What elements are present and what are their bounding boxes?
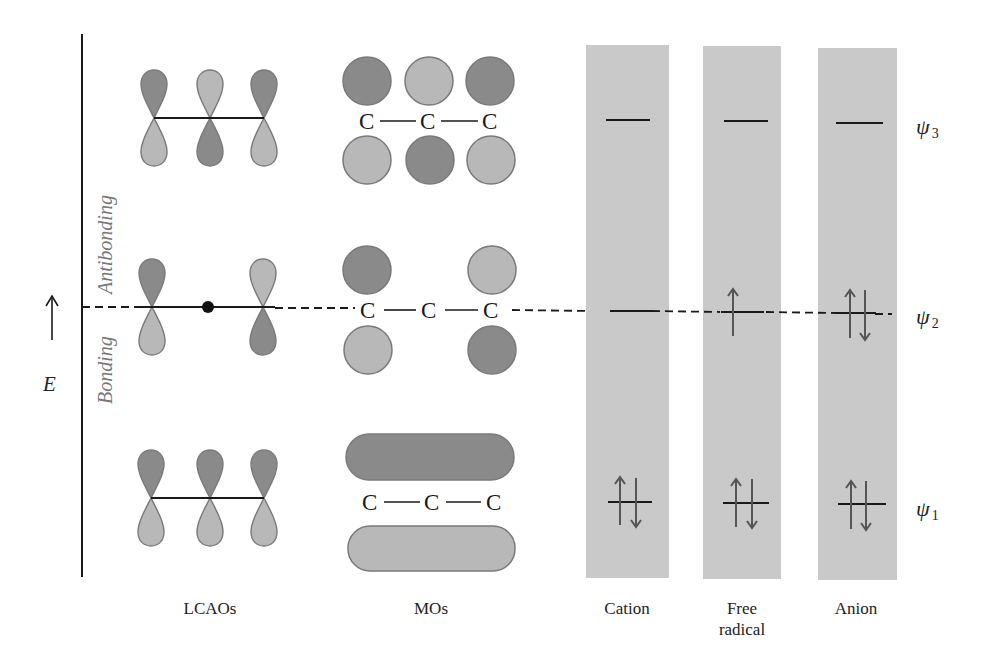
psi2-label: ψ2 (916, 304, 939, 332)
psi3-levels (606, 120, 883, 123)
antibonding-region-label: Antibonding (94, 195, 117, 294)
mo-psi3-carbon-chain: C C C (359, 109, 497, 134)
psi3-label: ψ3 (916, 114, 939, 142)
psi1-levels (608, 502, 886, 504)
electron-spin-down-icon (861, 481, 871, 530)
psi2-levels (610, 311, 876, 313)
psi1-label: ψ1 (916, 496, 939, 524)
mos-label: MOs (386, 598, 476, 619)
svg-text:C: C (482, 109, 497, 134)
svg-text:C: C (420, 109, 435, 134)
mo-diagram-graphics: C C C C C C C C C (0, 0, 981, 670)
energy-arrow-icon (46, 296, 58, 340)
svg-text:C: C (486, 490, 501, 515)
bonding-region-label: Bonding (94, 336, 117, 404)
lcao-psi1 (138, 450, 277, 546)
svg-text:C: C (362, 490, 377, 515)
mo-psi2-carbon-chain: C C C (360, 298, 498, 323)
free-radical-label-line1: Free (700, 598, 784, 619)
energy-label: E (43, 372, 56, 397)
lcao-psi3 (141, 70, 277, 166)
anion-label: Anion (816, 598, 896, 619)
free-radical-label: Free radical (700, 598, 784, 640)
svg-text:C: C (360, 298, 375, 323)
central-node-dot (202, 301, 214, 313)
svg-text:C: C (483, 298, 498, 323)
electron-spin-down-icon (860, 290, 870, 340)
lcao-psi2 (139, 259, 276, 355)
mo-psi1-carbon-chain: C C C (362, 490, 501, 515)
svg-text:C: C (424, 490, 439, 515)
svg-text:C: C (359, 109, 374, 134)
lcaos-label: LCAOs (160, 598, 260, 619)
free-radical-label-line2: radical (700, 619, 784, 640)
cation-label: Cation (587, 598, 667, 619)
svg-text:C: C (421, 298, 436, 323)
